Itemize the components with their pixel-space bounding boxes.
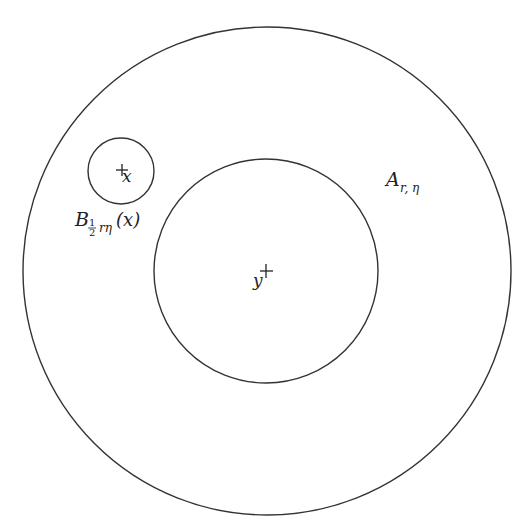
point-x-label: x bbox=[122, 166, 132, 186]
ball-label-arg: (x) bbox=[116, 209, 140, 230]
ball-label-frac-den: 2 bbox=[89, 227, 95, 238]
small-ball-circle bbox=[88, 138, 154, 204]
point-y-label: y bbox=[252, 270, 263, 290]
annulus-label-main: A bbox=[384, 168, 400, 190]
annulus-label: A r, η bbox=[384, 168, 420, 195]
ball-label-sub-rest: rη bbox=[99, 221, 113, 235]
ball-label-main: B bbox=[74, 208, 89, 230]
annulus-diagram: x y A r, η B 1 2 rη (x) bbox=[0, 0, 523, 528]
ball-label: B 1 2 rη (x) bbox=[74, 208, 140, 238]
annulus-label-subscript: r, η bbox=[400, 181, 420, 195]
